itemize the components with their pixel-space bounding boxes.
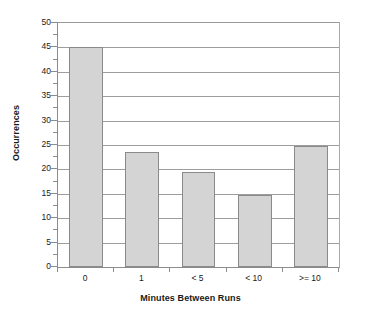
y-axis-tick-label: 50 (29, 18, 51, 26)
x-axis-tick-label: < 10 (226, 273, 282, 283)
x-axis-tick-mark (338, 267, 339, 272)
bar-slot (114, 23, 170, 267)
y-axis-tick-label: 35 (29, 91, 51, 99)
x-axis-tick-mark (226, 267, 227, 272)
x-axis-tick-mark (113, 267, 114, 272)
x-axis-tick-label: >= 10 (282, 273, 338, 283)
x-axis-tick-mark (57, 267, 58, 272)
x-axis-tick-label: 0 (57, 273, 113, 283)
plot-area (57, 22, 340, 268)
y-axis-tick-label: 20 (29, 164, 51, 172)
bar-slot (58, 23, 114, 267)
x-axis-tick-mark (282, 267, 283, 272)
x-axis-tick-mark (169, 267, 170, 272)
bar[interactable] (125, 152, 159, 267)
bar-slot (227, 23, 283, 267)
y-axis-tick-label: 10 (29, 213, 51, 221)
x-axis-title: Minutes Between Runs (0, 293, 381, 303)
y-axis-tick-label: 25 (29, 140, 51, 148)
y-axis-tick-label: 5 (29, 238, 51, 246)
x-axis-tick-label: 1 (113, 273, 169, 283)
bar[interactable] (182, 172, 216, 267)
bar-slot (170, 23, 226, 267)
y-axis-tick-label: 45 (29, 42, 51, 50)
bar-slot (283, 23, 339, 267)
y-axis-tick-label: 40 (29, 67, 51, 75)
y-axis-tick-label: 30 (29, 116, 51, 124)
y-axis-title: Occurrences (8, 0, 24, 266)
bar[interactable] (294, 146, 328, 267)
y-axis-title-text: Occurrences (11, 105, 21, 161)
bar[interactable] (69, 47, 103, 267)
y-axis-tick-label: 15 (29, 189, 51, 197)
bar-chart-figure: Occurrences 05101520253035404550 01< 5< … (0, 0, 381, 317)
y-axis-tick-label: 0 (29, 262, 51, 270)
bars-layer (58, 23, 339, 267)
x-axis-tick-label: < 5 (169, 273, 225, 283)
bar[interactable] (238, 195, 272, 267)
